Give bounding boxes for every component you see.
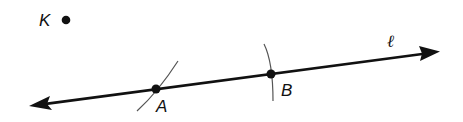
label-k: K <box>39 12 50 29</box>
construction-svg <box>0 0 463 122</box>
right-arrowhead-icon <box>419 46 440 61</box>
label-line-l: ℓ <box>387 33 394 50</box>
geometry-diagram: K A B ℓ <box>0 0 463 122</box>
point-a <box>152 85 161 94</box>
label-b: B <box>281 82 292 99</box>
point-b <box>267 70 276 79</box>
label-a: A <box>156 98 167 115</box>
line-l <box>42 53 428 104</box>
point-k <box>62 16 71 25</box>
